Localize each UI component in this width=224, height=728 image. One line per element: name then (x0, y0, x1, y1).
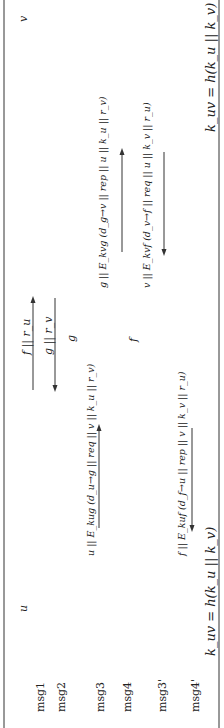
msg1-content: f || r_u (20, 319, 34, 356)
msg3-u-content: u || E_kug (d_u→g || req || v || k_u || … (85, 363, 97, 556)
arrowhead-icon (53, 385, 58, 392)
msg3-label: msg3 (94, 682, 107, 712)
message-labels: msg1 msg2 msg3 msg4 msg3' msg4' (34, 679, 202, 712)
protocol-diagram: u v msg1 msg2 msg3 msg4 msg3' msg4' f ||… (0, 0, 224, 728)
msg2-content: g || r_v (42, 316, 56, 355)
node-f: f (127, 336, 140, 343)
session-key-u: k_uv = h(k_u || k_v) (203, 527, 218, 656)
msg4-label: msg4 (121, 682, 134, 712)
msg4p-label: msg4' (189, 679, 202, 712)
party-v-label: v (17, 15, 30, 22)
msg2-label: msg2 (55, 682, 68, 712)
arrowhead-icon (190, 525, 195, 532)
session-key-v: k_uv = h(k_u || k_v) (203, 3, 218, 132)
msg3p-label: msg3' (156, 679, 169, 712)
msg1-label: msg1 (34, 682, 47, 712)
arrowhead-icon (162, 249, 167, 256)
msg3-v-content: g || E_kvg (d_g→v || rep || u || k_u || … (97, 96, 109, 288)
party-u-label: u (17, 605, 30, 612)
arrowhead-icon (120, 148, 125, 155)
msg3p-v-content: v || E_kvf (d_v→f || req || u || k_v || … (141, 102, 153, 288)
node-g: g (65, 335, 78, 342)
arrowhead-icon (31, 296, 36, 303)
msg3p-u-content: f || E_kuf (d_f→u || rep || v || k_v || … (176, 371, 188, 557)
arrowhead-icon (97, 424, 102, 431)
